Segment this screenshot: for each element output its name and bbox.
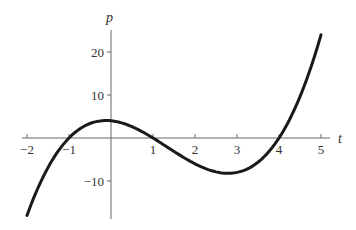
x-axis-label: t [338, 131, 343, 146]
y-axis-label: p [105, 10, 113, 25]
y-tick-label: 20 [91, 45, 104, 60]
x-tick-label: −2 [20, 142, 34, 157]
x-tick-label: 4 [276, 142, 283, 157]
data-curve [27, 35, 321, 216]
chart: −2−112345 2010−10 t p [0, 0, 356, 230]
y-tick-label: 10 [91, 88, 104, 103]
x-tick-label: 5 [318, 142, 325, 157]
y-tick-label: −10 [84, 174, 104, 189]
x-tick-label: 1 [150, 142, 157, 157]
y-ticks: 2010−10 [84, 45, 111, 189]
x-tick-label: 2 [192, 142, 199, 157]
x-tick-label: 3 [234, 142, 241, 157]
